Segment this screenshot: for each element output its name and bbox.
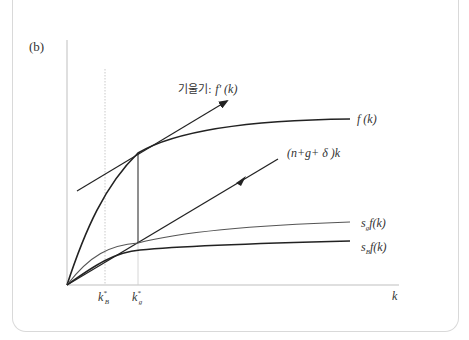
sB-f-label: sBf(k) [361, 240, 387, 256]
sg-f-curve [67, 222, 350, 285]
solow-diagram: (b) 기울기: f' (k) f (k) (n+g+ δ )k sgf(k) … [0, 0, 469, 340]
tangent-label: 기울기: f' (k) [178, 82, 237, 96]
sg-f-label: sgf(k) [361, 216, 386, 232]
kB-star-label: k*B [98, 289, 110, 306]
sB-f-curve [67, 241, 350, 285]
tangent-line [77, 101, 227, 191]
break-even-arrow [236, 176, 246, 186]
break-even-label: (n+g+ δ )k [287, 146, 341, 160]
panel-label: (b) [29, 39, 44, 54]
x-axis-label: k [392, 289, 398, 303]
kg-star-label: k*g [132, 289, 143, 306]
f-label: f (k) [357, 112, 377, 126]
